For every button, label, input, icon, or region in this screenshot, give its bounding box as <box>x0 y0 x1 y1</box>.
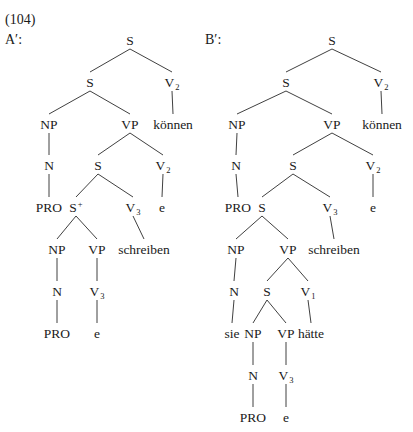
tree-node: NP <box>40 117 57 132</box>
tree-edge <box>332 133 373 155</box>
tree-edge <box>90 91 130 114</box>
tree-node: S <box>328 33 336 48</box>
tree-node: N <box>229 284 239 299</box>
tree-node: VP <box>121 117 138 132</box>
tree-node: schreiben <box>118 242 170 257</box>
tree-node: NP <box>228 117 245 132</box>
tree-edge <box>286 49 332 72</box>
tree-node: sie <box>225 326 240 341</box>
tree-edge <box>236 216 262 239</box>
tree-node: hätte <box>298 326 324 341</box>
tree-edge <box>308 300 311 323</box>
tree-edge <box>236 174 238 197</box>
tree-node: PRO <box>36 200 63 215</box>
tree-node: N <box>248 368 258 383</box>
tree-node: S <box>86 75 94 90</box>
tree-edge <box>293 133 332 155</box>
tree-edge <box>133 216 144 239</box>
tree-node: können <box>362 117 402 132</box>
tree-node: e <box>94 326 100 341</box>
tree-edge <box>172 91 173 114</box>
tree-edge <box>288 258 308 281</box>
tree-node: V2 <box>165 75 180 92</box>
tree-edge <box>49 91 90 114</box>
tree-edge <box>253 300 267 323</box>
tree-node: V3 <box>126 200 141 217</box>
tree-node: S <box>94 158 102 173</box>
tree-edge <box>236 133 237 155</box>
tree-edge <box>98 133 130 155</box>
tree-edge <box>76 174 98 197</box>
tree-node: N <box>44 158 54 173</box>
tree-edge <box>130 133 163 155</box>
tree-node: PRO <box>225 200 252 215</box>
tree-node: S <box>126 33 134 48</box>
tree-edge <box>232 300 234 323</box>
tree-node: NP <box>227 242 244 257</box>
tree-node: S+ <box>69 199 83 215</box>
tree-edge <box>286 91 332 114</box>
tree-node: e <box>159 200 165 215</box>
tree-node: V2 <box>374 75 389 92</box>
tree-node: e <box>370 200 376 215</box>
tree-node: e <box>283 410 289 425</box>
tree-edge <box>293 174 330 197</box>
tree-node: VP <box>277 326 294 341</box>
tree-edge <box>98 174 133 197</box>
tree-node: S <box>263 284 271 299</box>
tree-node: V1 <box>301 284 316 301</box>
tree-edge <box>330 216 334 239</box>
tree-edge <box>267 258 288 281</box>
tree-A-prime: SSV2NPVPkönnenNSV2PROS+V3eNPVPschreibenN… <box>36 33 193 341</box>
tree-edge <box>76 216 97 239</box>
tree-edge <box>90 49 130 72</box>
tree-edge <box>262 174 293 197</box>
tree-node: VP <box>88 242 105 257</box>
tree-node: VP <box>323 117 340 132</box>
tree-edge <box>262 216 288 239</box>
tree-edge <box>237 91 286 114</box>
tree-edge <box>332 49 381 72</box>
tree-B-prime: SSV2NPVPkönnenNSV2PROSV3eNPVPschreibenNS… <box>225 33 403 425</box>
tree-edge <box>381 91 382 114</box>
tree-edge <box>267 300 286 323</box>
tree-node: V2 <box>156 158 171 175</box>
tree-node: S <box>289 158 297 173</box>
tree-edge <box>57 216 76 239</box>
tree-node: V3 <box>90 284 105 301</box>
tree-node: V3 <box>323 200 338 217</box>
tree-node: PRO <box>44 326 71 341</box>
tree-node: N <box>52 284 62 299</box>
tree-node: S <box>282 75 290 90</box>
tree-edge <box>234 258 236 281</box>
tree-node: NP <box>244 326 261 341</box>
tree-node: PRO <box>240 410 267 425</box>
tree-edge <box>130 49 172 72</box>
tree-node: S <box>258 200 266 215</box>
tree-diagram: SSV2NPVPkönnenNSV2PROS+V3eNPVPschreibenN… <box>0 0 413 432</box>
tree-node: N <box>231 158 241 173</box>
tree-node: NP <box>48 242 65 257</box>
tree-node: V2 <box>366 158 381 175</box>
tree-edge <box>162 174 163 197</box>
tree-node: V3 <box>279 368 294 385</box>
tree-node: schreiben <box>308 242 360 257</box>
tree-node: können <box>153 117 193 132</box>
tree-node: VP <box>279 242 296 257</box>
syntax-tree-figure: (104) A′: B′: SSV2NPVPkönnenNSV2PROS+V3e… <box>0 0 413 432</box>
